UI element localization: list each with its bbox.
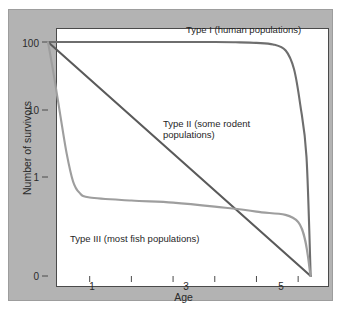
y-axis-title: Number of survivors: [21, 88, 33, 208]
annotation-type-3: Type III (most fish populations): [70, 233, 199, 244]
x-axis-title: Age: [47, 291, 320, 303]
plot-area: [56, 28, 329, 287]
annotation-type-2: Type II (some rodent populations): [163, 118, 250, 140]
survivorship-curve-figure: 100 10 1 0 1 3 5 Number of survivors Age…: [0, 0, 344, 321]
annotation-type-1: Type I (human populations): [186, 24, 301, 35]
figure-panel: 100 10 1 0 1 3 5 Number of survivors: [8, 9, 333, 301]
y-tick-label-100: 100: [11, 39, 39, 49]
y-tick-label-0: 0: [11, 272, 39, 282]
